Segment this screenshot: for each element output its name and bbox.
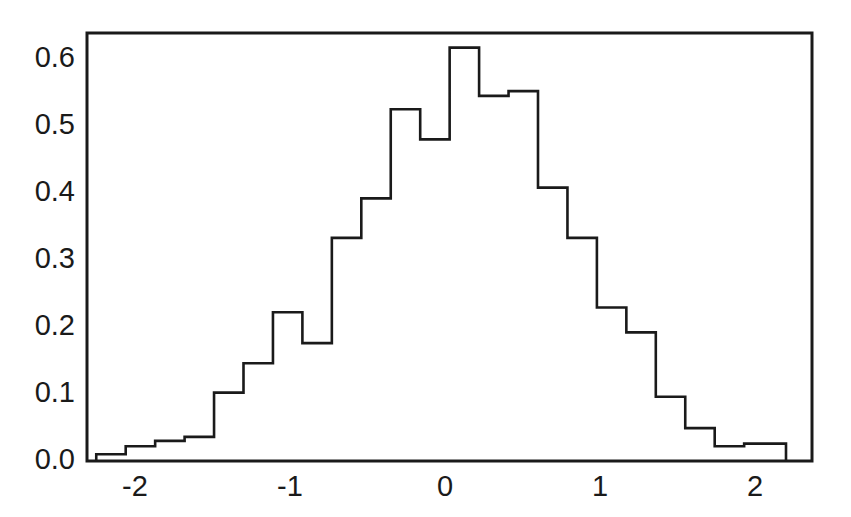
histogram-figure: 0.00.10.20.30.40.50.6 -2-1012: [0, 0, 851, 517]
x-tick-label: -2: [122, 470, 148, 502]
x-axis-tick-labels: -2-1012: [122, 470, 763, 502]
y-tick-label: 0.0: [35, 443, 75, 475]
y-tick-label: 0.6: [35, 41, 75, 73]
x-tick-label: -1: [277, 470, 303, 502]
histogram-plot: 0.00.10.20.30.40.50.6 -2-1012: [0, 0, 851, 517]
x-tick-label: 2: [747, 470, 763, 502]
x-tick-label: 1: [592, 470, 608, 502]
y-tick-label: 0.3: [35, 242, 75, 274]
y-axis-tick-labels: 0.00.10.20.30.40.50.6: [35, 41, 75, 475]
y-tick-label: 0.1: [35, 376, 75, 408]
x-tick-label: 0: [437, 470, 453, 502]
histogram-step-outline: [96, 48, 786, 461]
y-tick-label: 0.5: [35, 108, 75, 140]
y-tick-label: 0.4: [35, 175, 75, 207]
y-tick-label: 0.2: [35, 309, 75, 341]
